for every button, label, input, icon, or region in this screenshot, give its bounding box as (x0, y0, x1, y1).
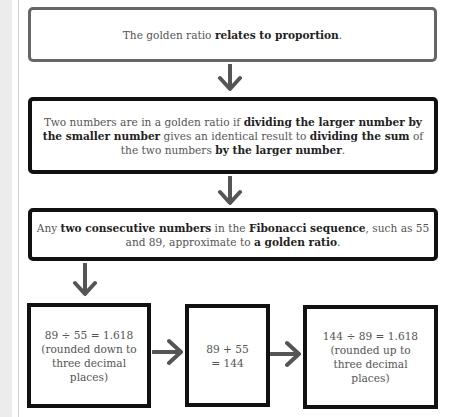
arrow-right-icon (270, 340, 302, 368)
box-text: 89 + 55 = 144 (206, 342, 249, 370)
arrow-down-icon (71, 263, 99, 297)
arrow-right-icon (152, 338, 184, 366)
division-144-by-89-box: 144 ÷ 89 = 1.618 (rounded up to three de… (303, 305, 438, 409)
box-text: The golden ratio relates to proportion. (123, 28, 342, 42)
page-margin-line (18, 0, 19, 417)
page-margin-strip (0, 0, 12, 417)
sum-89-plus-55-box: 89 + 55 = 144 (185, 304, 270, 407)
box-text: Any two consecutive numbers in the Fibon… (32, 221, 434, 249)
fibonacci-sequence-box: Any two consecutive numbers in the Fibon… (28, 208, 438, 261)
division-89-by-55-box: 89 ÷ 55 = 1.618 (rounded down to three d… (27, 303, 151, 408)
golden-ratio-rule-box: Two numbers are in a golden ratio if div… (28, 97, 438, 174)
golden-ratio-definition-box: The golden ratio relates to proportion. (28, 7, 437, 62)
box-text: 144 ÷ 89 = 1.618 (rounded up to three de… (315, 329, 426, 385)
arrow-down-icon (216, 64, 244, 92)
arrow-down-icon (216, 176, 244, 206)
box-text: 89 ÷ 55 = 1.618 (rounded down to three d… (37, 328, 141, 384)
box-text: Two numbers are in a golden ratio if div… (42, 115, 424, 157)
